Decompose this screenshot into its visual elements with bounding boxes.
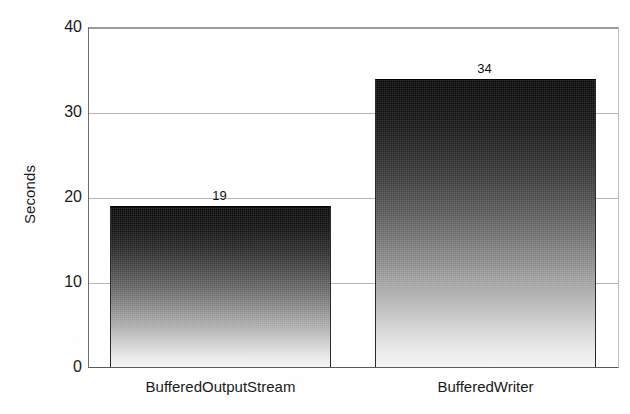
y-axis-title: Seconds: [21, 135, 38, 255]
bar-buffered-writer[interactable]: [375, 79, 596, 367]
y-axis-tick-labels: 40 30 20 10 0: [36, 0, 82, 414]
bar-value-label-buffered-writer: 34: [374, 62, 595, 75]
x-tick-label-buffered-writer: BufferedWriter: [365, 379, 606, 394]
y-tick-label-0: 0: [36, 359, 82, 375]
y-tick-label-40: 40: [36, 19, 82, 35]
y-tick-label-30: 30: [36, 104, 82, 120]
bar-buffered-output-stream[interactable]: [110, 206, 331, 367]
bar-chart: Seconds 40 30 20 10 0 19 34 BufferedOutp…: [0, 0, 630, 414]
y-tick-label-20: 20: [36, 189, 82, 205]
y-tick-label-10: 10: [36, 274, 82, 290]
gridline-40: [89, 28, 618, 29]
bar-value-label-buffered-output-stream: 19: [109, 189, 330, 202]
x-tick-label-buffered-output-stream: BufferedOutputStream: [100, 379, 341, 394]
